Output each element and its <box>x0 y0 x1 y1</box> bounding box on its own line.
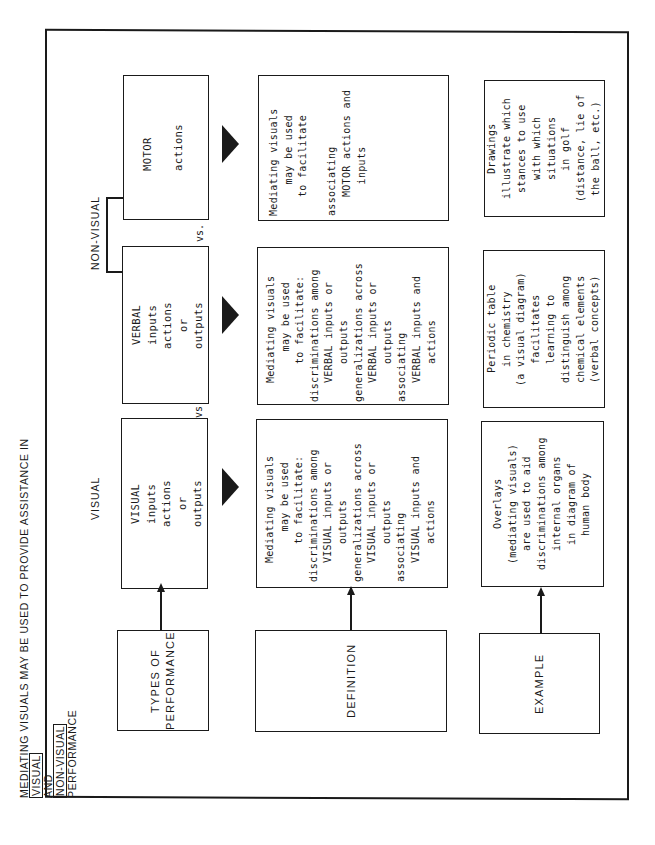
title-prefix: MEDIATING VISUALS MAY BE USED TO PROVIDE… <box>18 438 30 798</box>
group-label-visual: VISUAL <box>88 468 104 528</box>
example-box-visual: Overlays (mediating visuals) are used to… <box>481 421 604 587</box>
definition-box-verbal: Mediating visuals may be used to facilit… <box>257 247 449 405</box>
category-box-visual: VISUAL inputs actions or outputs <box>121 418 208 589</box>
example-text-verbal: Periodic table in chemistry (a visual di… <box>484 251 604 407</box>
row-label-types: TYPES OF PERFORMANCE <box>118 631 208 730</box>
non-visual-bracket-top <box>106 197 124 199</box>
definition-box-visual: Mediating visuals may be used to facilit… <box>256 419 448 588</box>
vs-separator-verbal-motor: vs. <box>194 222 208 244</box>
row-label-types-box: TYPES OF PERFORMANCE <box>117 630 209 731</box>
example-box-motor: Drawings illustrate which stances to use… <box>484 80 605 217</box>
category-text-verbal: VERBAL inputs actions or outputs <box>129 247 207 403</box>
definition-text-verbal: Mediating visuals may be used to facilit… <box>264 250 439 402</box>
triangle-arrow-motor-icon <box>222 125 239 163</box>
vs-separator-visual-verbal: vs <box>193 405 207 419</box>
group-label-non-visual: NON-VISUAL <box>88 200 104 270</box>
row-label-example: EXAMPLE <box>480 634 599 733</box>
example-text-motor: Drawings illustrate which stances to use… <box>485 81 604 216</box>
definition-text-visual: Mediating visuals may be used to facilit… <box>263 426 438 582</box>
category-text-motor: MOTOR actions <box>140 76 187 219</box>
arrowhead-example-icon <box>537 587 545 596</box>
connector-definition <box>350 590 352 630</box>
triangle-arrow-visual-icon <box>222 468 239 506</box>
title-visual-boxed: VISUAL <box>29 753 43 798</box>
row-label-example-box: EXAMPLE <box>479 633 600 734</box>
arrowhead-definition-icon <box>347 586 355 595</box>
definition-box-motor: Mediating visuals may be used to facilit… <box>258 75 449 221</box>
category-text-visual: VISUAL inputs actions or outputs <box>128 419 206 588</box>
non-visual-bracket-vertical <box>106 197 108 272</box>
definition-text-motor: Mediating visuals may be used to facilit… <box>267 82 369 216</box>
example-text-visual: Overlays (mediating visuals) are used to… <box>482 422 603 586</box>
example-box-verbal: Periodic table in chemistry (a visual di… <box>483 250 605 408</box>
connector-types <box>160 590 162 630</box>
category-box-motor: MOTOR actions <box>123 75 209 220</box>
row-label-definition: DEFINITION <box>256 631 446 731</box>
triangle-arrow-verbal-icon <box>222 296 239 334</box>
category-box-verbal: VERBAL inputs actions or outputs <box>122 246 209 404</box>
row-label-definition-box: DEFINITION <box>255 630 447 732</box>
arrowhead-types-icon <box>157 583 165 592</box>
